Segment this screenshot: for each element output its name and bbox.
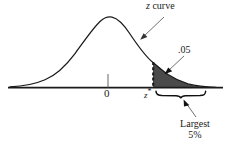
tail-area-label: .05 bbox=[178, 45, 191, 56]
critical-value-label: z* bbox=[144, 88, 152, 100]
largest-5-percent-label: Largest5% bbox=[168, 119, 222, 140]
largest-label-line2: 5% bbox=[168, 130, 222, 141]
shaded-tail-region bbox=[153, 63, 216, 88]
z-curve-label-rest: curve bbox=[150, 0, 175, 11]
largest-5-percent-brace bbox=[156, 91, 206, 98]
z-curve-leader-line bbox=[143, 17, 164, 37]
z-curve-figure: z curve .05 0 z* Largest5% bbox=[0, 0, 232, 150]
tail-area-leader-line bbox=[168, 56, 184, 71]
critical-value-label-star: * bbox=[148, 87, 152, 96]
largest-arrowhead bbox=[184, 100, 190, 107]
zero-axis-label: 0 bbox=[104, 88, 110, 100]
z-curve-label: z curve bbox=[146, 1, 175, 12]
largest-label-line1: Largest bbox=[180, 118, 210, 129]
